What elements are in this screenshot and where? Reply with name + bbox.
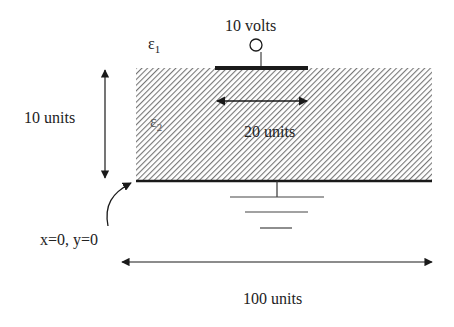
epsilon1-symbol: ε bbox=[148, 35, 155, 52]
electrode-width-label: 20 units bbox=[244, 124, 295, 140]
height-label: 10 units bbox=[24, 110, 75, 126]
total-width-label: 100 units bbox=[243, 291, 302, 307]
epsilon1-subscript: 1 bbox=[155, 43, 161, 55]
diagram-canvas bbox=[0, 0, 454, 327]
epsilon2-subscript: 2 bbox=[157, 121, 163, 133]
epsilon2-symbol: ε bbox=[150, 113, 157, 130]
epsilon1-label: ε1 bbox=[148, 36, 160, 55]
epsilon2-label: ε2 bbox=[150, 114, 162, 133]
origin-label: x=0, y=0 bbox=[40, 232, 98, 248]
origin-pointer-arrow bbox=[107, 183, 131, 226]
terminal-circle bbox=[250, 39, 262, 51]
voltage-label: 10 volts bbox=[225, 18, 276, 34]
